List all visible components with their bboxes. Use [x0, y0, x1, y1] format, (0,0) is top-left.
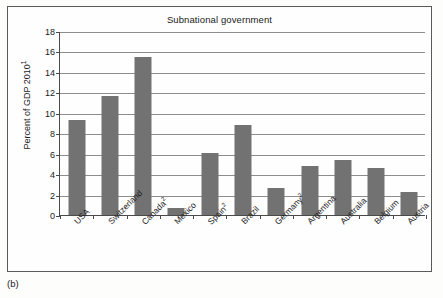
- y-axis-tick-label: 14: [45, 68, 55, 78]
- bar[interactable]: [201, 153, 218, 215]
- bar-slot: [359, 32, 392, 215]
- y-axis-title-superscript: 1: [20, 61, 27, 65]
- bar-slot: [293, 32, 326, 215]
- x-axis-labels-group: USASwitzerlandCanada2MexicoSpain2BrazilG…: [59, 219, 425, 277]
- bar-slot: [60, 32, 93, 215]
- y-axis-tick-label: 18: [45, 27, 55, 37]
- bar-slot: [226, 32, 259, 215]
- y-axis-title: Percent of GDP 20101: [20, 35, 32, 175]
- y-axis-tick-label: 6: [50, 150, 55, 160]
- y-axis-tick-label: 12: [45, 88, 55, 98]
- chart-frame: Subnational government Percent of GDP 20…: [7, 6, 432, 272]
- x-axis-tick-mark: [426, 215, 427, 219]
- bar[interactable]: [234, 125, 251, 215]
- bar-slot: [260, 32, 293, 215]
- bar-slot: [326, 32, 359, 215]
- y-axis-tick-label: 2: [50, 191, 55, 201]
- y-axis-title-text: Percent of GDP 2010: [22, 64, 32, 149]
- y-axis-tick-label: 0: [50, 211, 55, 221]
- figure-caption: (b): [7, 278, 19, 289]
- bars-group: [60, 32, 425, 215]
- bar-slot: [393, 32, 426, 215]
- y-axis-tick-label: 8: [50, 129, 55, 139]
- y-axis-tick-label: 16: [45, 47, 55, 57]
- bar[interactable]: [101, 96, 118, 215]
- chart-title: Subnational government: [8, 14, 431, 25]
- bar-slot: [127, 32, 160, 215]
- bar-slot: [160, 32, 193, 215]
- y-axis-tick-label: 4: [50, 170, 55, 180]
- bar[interactable]: [68, 120, 85, 215]
- bar-slot: [193, 32, 226, 215]
- plot-area: 024681012141618: [59, 32, 425, 216]
- y-axis-tick-label: 10: [45, 109, 55, 119]
- bar-slot: [93, 32, 126, 215]
- figure-container: Subnational government Percent of GDP 20…: [0, 0, 443, 298]
